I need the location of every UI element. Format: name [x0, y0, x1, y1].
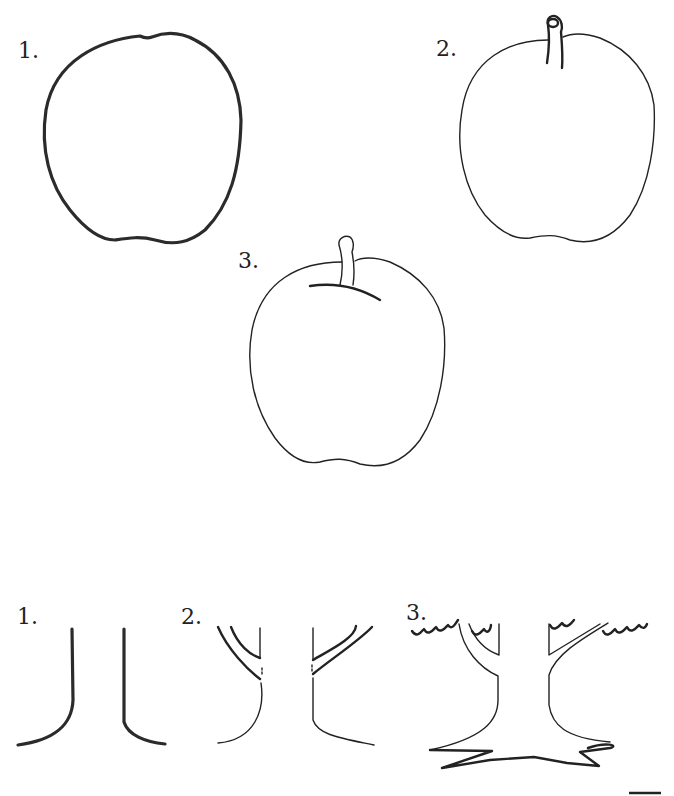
- drawing-canvas: [0, 0, 674, 796]
- tree-step-2-label: 2.: [181, 606, 202, 628]
- tree-step-2-drawing: [218, 626, 374, 745]
- apple-step-3-label: 3.: [238, 250, 259, 272]
- tree-step-1-label: 1.: [17, 606, 38, 628]
- tree-step-1-drawing: [18, 629, 165, 745]
- apple-step-1-drawing: [44, 34, 241, 243]
- apple-step-3-drawing: [250, 236, 445, 465]
- tree-step-3-drawing: [412, 620, 647, 768]
- apple-step-2-label: 2.: [436, 38, 457, 60]
- apple-step-2-drawing: [460, 16, 655, 242]
- apple-step-1-label: 1.: [18, 40, 39, 62]
- tree-step-3-label: 3.: [406, 602, 427, 624]
